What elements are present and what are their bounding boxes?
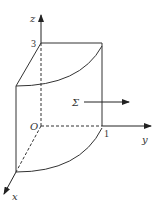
y-radius-label: 1: [104, 128, 109, 139]
bottom-arc: [16, 128, 102, 172]
origin-label: O: [30, 121, 38, 132]
z-height-label: 3: [31, 38, 36, 49]
quarter-cylinder-diagram: z 3 y 1 x O Σ: [0, 0, 161, 207]
x-axis-dashed: [16, 126, 41, 172]
surface-sigma-label: Σ: [71, 97, 80, 108]
z-axis-label: z: [29, 13, 36, 24]
top-arc: [16, 46, 102, 86]
top-edge-x: [16, 43, 41, 86]
x-axis-label: x: [12, 191, 18, 202]
y-axis-label: y: [141, 134, 148, 145]
